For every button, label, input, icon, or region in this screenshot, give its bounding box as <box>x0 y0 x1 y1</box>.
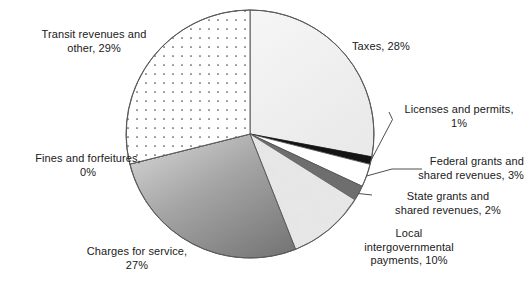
slice-label-federal-grants: Federal grants and shared revenues, 3% <box>396 155 524 182</box>
slice-label-local-intergovernmental: Local intergovernmental payments, 10% <box>340 227 478 268</box>
pie-chart-figure: Transit revenues and other, 29% Fines an… <box>0 0 529 284</box>
leader-line-state <box>359 194 373 196</box>
slice-label-fines-and-forfeitures: Fines and forfeitures, 0% <box>5 152 171 179</box>
slice-label-taxes: Taxes, 28% <box>352 40 472 54</box>
slice-label-licenses-and-permits: Licenses and permits, 1% <box>392 103 526 130</box>
slice-label-charges-for-service: Charges for service, 27% <box>52 245 222 272</box>
pie-slice-taxes[interactable] <box>250 10 374 157</box>
slice-label-transit-revenues: Transit revenues and other, 29% <box>12 28 176 55</box>
slice-label-state-grants: State grants and shared revenues, 2% <box>372 190 524 217</box>
